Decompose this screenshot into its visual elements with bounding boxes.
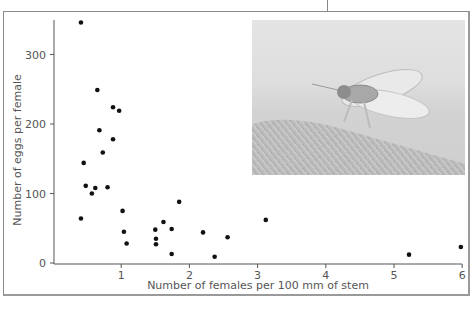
y-tick-label: 300 xyxy=(25,49,46,62)
x-tick-label: 1 xyxy=(118,269,125,282)
data-point xyxy=(105,185,110,190)
data-point xyxy=(459,245,464,250)
data-point xyxy=(161,220,166,225)
y-tick-label: 0 xyxy=(39,257,46,270)
data-point xyxy=(154,242,159,247)
data-point xyxy=(169,227,174,232)
data-point xyxy=(111,105,116,110)
data-point xyxy=(177,200,182,205)
scatter-plot: 0100200300 123456 xyxy=(0,0,473,312)
data-point xyxy=(111,137,116,142)
x-tick-label: 6 xyxy=(459,269,466,282)
data-point xyxy=(120,209,125,214)
data-point xyxy=(100,150,105,155)
data-point xyxy=(90,191,95,196)
data-point xyxy=(81,161,86,166)
y-axis-label: Number of eggs per female xyxy=(11,74,24,225)
data-point xyxy=(117,108,122,113)
data-point xyxy=(79,20,84,25)
data-point xyxy=(407,252,412,257)
data-point xyxy=(201,230,206,235)
data-point xyxy=(97,128,102,133)
data-point xyxy=(122,229,127,234)
data-point xyxy=(263,218,268,223)
data-point xyxy=(79,216,84,221)
x-tick-label: 5 xyxy=(391,269,398,282)
data-point xyxy=(169,252,174,257)
data-point xyxy=(153,227,158,232)
data-point xyxy=(95,88,100,93)
data-point xyxy=(93,186,98,191)
y-tick-label: 200 xyxy=(25,118,46,131)
data-points xyxy=(79,20,463,259)
y-tick-label: 100 xyxy=(25,188,46,201)
x-axis-label: Number of females per 100 mm of stem xyxy=(147,279,369,292)
y-ticks: 0100200300 xyxy=(25,49,54,271)
data-point xyxy=(225,235,230,240)
data-point xyxy=(212,254,217,259)
data-point xyxy=(124,241,129,246)
data-point xyxy=(154,236,159,241)
data-point xyxy=(83,184,88,189)
